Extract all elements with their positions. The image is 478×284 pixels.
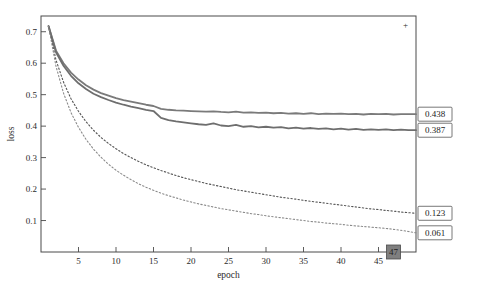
x-axis-title: epoch xyxy=(217,270,240,280)
y-tick-label: 0.6 xyxy=(26,58,38,68)
series-val-loss-a xyxy=(49,26,417,114)
corner-mark: + xyxy=(403,20,408,30)
chart-container: 0.10.20.30.40.50.60.751015202530354045ep… xyxy=(0,0,478,284)
x-tick-label: 15 xyxy=(149,256,159,266)
series-b-final-label: 0.387 xyxy=(425,125,446,135)
y-tick-label: 0.2 xyxy=(26,184,37,194)
y-tick-label: 0.5 xyxy=(26,90,38,100)
series-train-loss-c xyxy=(49,26,417,213)
series-a-final-label: 0.438 xyxy=(425,109,446,119)
y-tick-label: 0.3 xyxy=(26,153,38,163)
x-tick-label: 45 xyxy=(374,256,384,266)
series-d-final-label: 0.061 xyxy=(425,228,445,238)
y-axis-title: loss xyxy=(6,126,16,141)
x-tick-label: 40 xyxy=(337,256,347,266)
x-end-marker-label: 47 xyxy=(389,247,399,257)
y-tick-label: 0.1 xyxy=(26,216,37,226)
x-tick-label: 10 xyxy=(112,256,122,266)
x-tick-label: 5 xyxy=(76,256,81,266)
y-tick-label: 0.7 xyxy=(26,27,38,37)
series-c-final-label: 0.123 xyxy=(425,208,446,218)
x-tick-label: 30 xyxy=(262,256,272,266)
x-tick-label: 20 xyxy=(187,256,197,266)
loss-vs-epoch-chart: 0.10.20.30.40.50.60.751015202530354045ep… xyxy=(0,0,478,284)
x-tick-label: 25 xyxy=(224,256,234,266)
y-tick-label: 0.4 xyxy=(26,121,38,131)
x-tick-label: 35 xyxy=(299,256,309,266)
